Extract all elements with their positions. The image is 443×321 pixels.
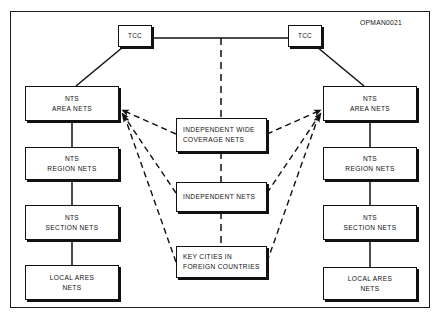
node-right-region-nets[interactable]: NTS REGION NETS xyxy=(323,147,417,180)
node-left-region-nets[interactable]: NTS REGION NETS xyxy=(25,147,119,180)
node-independent-wide-coverage-nets-line-0: INDEPENDENT WIDE xyxy=(183,125,255,135)
node-right-section-nets-line-1: SECTION NETS xyxy=(344,223,397,233)
connector-tcc-left-to-left-area xyxy=(76,47,123,86)
connector-independent-to-left-area xyxy=(122,113,176,193)
node-key-cities-foreign-countries[interactable]: KEY CITIES IN FOREIGN COUNTRIES xyxy=(176,246,267,278)
node-right-local-ares-nets-line-1: NETS xyxy=(361,284,380,294)
connector-wide-to-right-area xyxy=(267,110,321,134)
node-left-section-nets-line-1: SECTION NETS xyxy=(46,223,99,233)
connector-tcc-right-to-right-area xyxy=(317,47,364,86)
node-left-local-ares-nets-line-1: NETS xyxy=(63,283,82,293)
connector-keycities-to-right-area xyxy=(267,115,319,262)
node-tcc-left-line-0: TCC xyxy=(128,31,142,40)
node-tcc-right[interactable]: TCC xyxy=(288,25,322,47)
connector-wide-to-left-area xyxy=(122,110,176,134)
node-right-local-ares-nets[interactable]: LOCAL ARES NETS xyxy=(323,267,417,300)
connector-independent-to-right-area xyxy=(267,113,321,193)
node-right-local-ares-nets-line-0: LOCAL ARES xyxy=(348,274,392,284)
node-independent-wide-coverage-nets[interactable]: INDEPENDENT WIDE COVERAGE NETS xyxy=(176,118,267,152)
node-left-local-ares-nets-line-0: LOCAL ARES xyxy=(50,273,94,283)
node-key-cities-foreign-countries-line-1: FOREIGN COUNTRIES xyxy=(183,262,260,272)
node-right-section-nets[interactable]: NTS SECTION NETS xyxy=(323,205,417,240)
node-right-region-nets-line-0: NTS xyxy=(363,154,377,164)
node-left-region-nets-line-0: NTS xyxy=(65,154,79,164)
node-tcc-left[interactable]: TCC xyxy=(118,25,152,47)
node-independent-wide-coverage-nets-line-1: COVERAGE NETS xyxy=(183,135,244,145)
node-right-region-nets-line-1: REGION NETS xyxy=(345,164,394,174)
node-left-area-nets-line-0: NTS xyxy=(65,94,79,104)
node-independent-nets[interactable]: INDEPENDENT NETS xyxy=(176,182,267,212)
node-left-region-nets-line-1: REGION NETS xyxy=(47,164,96,174)
node-right-area-nets[interactable]: NTS AREA NETS xyxy=(323,86,417,121)
node-independent-nets-line-0: INDEPENDENT NETS xyxy=(183,192,255,202)
node-right-area-nets-line-1: AREA NETS xyxy=(350,104,390,114)
node-right-area-nets-line-0: NTS xyxy=(363,94,377,104)
node-left-local-ares-nets[interactable]: LOCAL ARES NETS xyxy=(25,265,119,300)
node-right-section-nets-line-0: NTS xyxy=(363,213,377,223)
document-code-label: OPMAN0021 xyxy=(360,19,402,26)
diagram-canvas: OPMAN0021 TCC TCC NTS AREA NETS NTS REGI… xyxy=(0,0,443,321)
node-left-section-nets[interactable]: NTS SECTION NETS xyxy=(25,205,119,240)
node-key-cities-foreign-countries-line-0: KEY CITIES IN xyxy=(183,252,232,262)
node-left-area-nets-line-1: AREA NETS xyxy=(52,104,92,114)
node-left-section-nets-line-0: NTS xyxy=(65,213,79,223)
node-tcc-right-line-0: TCC xyxy=(298,31,312,40)
connector-keycities-to-left-area xyxy=(124,115,176,262)
node-left-area-nets[interactable]: NTS AREA NETS xyxy=(25,86,119,121)
